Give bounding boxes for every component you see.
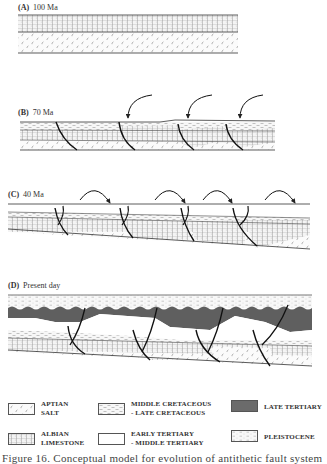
early-tertiary-swatch [98,433,125,445]
late-tertiary-label: LATE TERTIARY [264,401,322,412]
legend-line-1: MIDDLE CRETACEOUS [131,400,211,409]
panel-a-letter: (A) [18,3,29,12]
early-tertiary-label: EARLY TERTIARY- MIDDLE TERTIARY [131,430,204,448]
panel-b-label: (B) 70 Ma [18,108,53,117]
legend-item-early-middle-tertiary: EARLY TERTIARY- MIDDLE TERTIARY [98,430,204,448]
legend-line-1: EARLY TERTIARY [131,430,204,439]
legend-line-2: LIMESTONE [41,439,84,448]
panel-c-letter: (C) [8,190,19,199]
legend-item-pleistocene: PLEISTOCENE [231,430,315,442]
panel-d-letter: (D) [8,281,19,290]
legend-line-1: PLEISTOCENE [264,433,315,442]
late-tertiary-swatch [231,400,258,412]
panel-d-age: Present day [23,281,60,290]
panel-a-label: (A) 100 Ma [18,3,58,12]
panel-d-label: (D) Present day [8,281,60,290]
legend-line-1: APTIAN [41,400,68,409]
figure-caption: Figure 16. Conceptual model for evolutio… [2,452,322,464]
albian-limestone-swatch [8,433,35,445]
legend-line-1: ALBIAN [41,430,84,439]
aptian-salt-swatch [8,403,35,415]
legend-line-1: LATE TERTIARY [264,403,322,412]
panel-b-letter: (B) [18,108,29,117]
panel-b-age: 70 Ma [33,108,54,117]
legend-line-2: - LATE CRETACEOUS [131,409,211,418]
panel-c-section [8,191,310,249]
albian-limestone-label: ALBIANLIMESTONE [41,430,84,448]
legend-item-late-tertiary: LATE TERTIARY [231,400,322,412]
cretaceous-swatch [98,403,125,415]
panel-c-label: (C) 40 Ma [8,190,44,199]
panel-a-age: 100 Ma [33,3,58,12]
panel-c-age: 40 Ma [23,190,44,199]
pleistocene-swatch [231,430,258,442]
legend-line-2: SALT [41,409,68,418]
legend-item-middle-late-cretaceous: MIDDLE CRETACEOUS- LATE CRETACEOUS [98,400,211,418]
legend-line-2: - MIDDLE TERTIARY [131,439,204,448]
aptian-salt-label: APTIANSALT [41,400,68,418]
panel-d-section [8,295,312,366]
cretaceous-label: MIDDLE CRETACEOUS- LATE CRETACEOUS [131,400,211,418]
legend-item-aptian-salt: APTIANSALT [8,400,68,418]
panel-a-section [18,15,238,53]
legend-item-albian-limestone: ALBIANLIMESTONE [8,430,84,448]
panel-b-section [20,95,275,150]
pleistocene-label: PLEISTOCENE [264,431,315,442]
